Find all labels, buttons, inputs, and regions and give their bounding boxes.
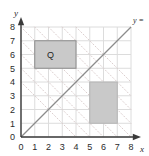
x-tick-label: 6 [101, 142, 106, 152]
y-tick-label: 8 [10, 22, 15, 32]
x-tick-label: 5 [87, 142, 92, 152]
y-tick-label: 1 [10, 119, 15, 129]
x-tick-label: 1 [32, 142, 37, 152]
y-tick-labels: 0 1 2 3 4 5 6 7 8 [10, 22, 15, 142]
y-tick-label: 7 [10, 36, 15, 46]
x-tick-label: 8 [128, 142, 133, 152]
x-axis-arrow [133, 134, 141, 140]
rectangle-image [90, 82, 118, 123]
x-tick-label: 2 [46, 142, 51, 152]
x-tick-label: 4 [73, 142, 78, 152]
y-tick-label: 2 [10, 105, 15, 115]
y-tick-label: 4 [10, 77, 15, 87]
y-tick-label: 5 [10, 64, 15, 74]
x-tick-label: 7 [115, 142, 120, 152]
y-tick-label: 6 [10, 50, 15, 60]
x-tick-label: 0 [18, 142, 23, 152]
x-axis-label: x [139, 144, 144, 154]
y-axis-arrow [18, 17, 24, 25]
x-tick-labels: 0 1 2 3 4 5 6 7 8 [18, 142, 133, 152]
x-tick-label: 3 [60, 142, 65, 152]
rectangle-q [35, 41, 76, 69]
y-tick-label: 0 [10, 132, 15, 142]
y-tick-label: 3 [10, 91, 15, 101]
chart-svg: 0 1 2 3 4 5 6 7 8 0 1 2 3 4 5 6 7 8 y x … [0, 0, 149, 156]
mirror-line-label: y = [132, 16, 144, 25]
y-axis-label: y [13, 8, 18, 18]
coordinate-grid-figure: 0 1 2 3 4 5 6 7 8 0 1 2 3 4 5 6 7 8 y x … [0, 0, 149, 156]
rectangle-q-label: Q [47, 50, 54, 60]
